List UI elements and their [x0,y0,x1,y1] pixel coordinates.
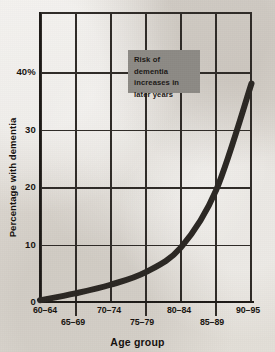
y-axis-title: Percentage with dementia [7,103,18,253]
gridline-vertical [110,12,112,302]
x-tick-label: 80–84 [167,305,191,315]
gridline-vertical [215,12,217,302]
chart-screenshot: 40% 30 20 10 0 Percentage with dementia … [0,0,275,352]
y-tick-labels: 40% 30 20 10 0 [0,0,36,352]
ghost-top-text [150,0,260,10]
y-tick-label: 10 [25,239,36,250]
y-tick-label: 40% [16,66,36,77]
x-axis-line [40,301,254,303]
x-tick-label: 90–95 [236,305,260,315]
x-axis-title: Age group [0,336,275,348]
y-tick-label: 30 [25,124,36,135]
x-tick-label: 60–64 [33,305,57,315]
y-tick-label: 20 [25,181,36,192]
x-tick-mark [215,303,217,316]
x-tick-mark [145,303,147,316]
x-tick-label: 75–79 [130,317,154,327]
annotation-callout: Risk of dementia increases in later year… [128,50,200,93]
x-tick-label: 70–74 [97,305,121,315]
x-tick-label: 65–69 [61,317,85,327]
y-axis-line [39,12,41,303]
gridline-vertical [75,12,77,302]
x-tick-label: 85–89 [200,317,224,327]
x-tick-mark [75,303,77,316]
gridline-vertical [250,12,252,302]
